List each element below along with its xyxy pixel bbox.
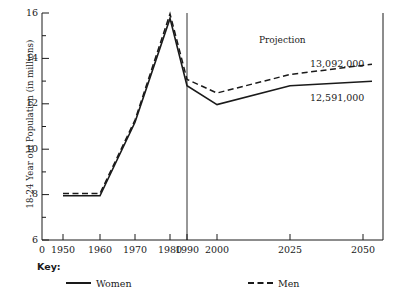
legend-swatch-solid-icon [66,282,91,284]
chart-figure: 18-24 Year old Population (in millions) … [0,0,398,297]
legend-item-men: Men [248,278,299,289]
chart-legend: Key: Women Men [0,258,398,297]
legend-label-men: Men [278,278,299,289]
axis-lines [42,13,383,240]
y-minor-ticks [42,36,46,218]
series-line-women [63,18,372,195]
legend-label-women: Women [96,278,132,289]
plot-area [0,0,398,297]
legend-title: Key: [37,261,61,272]
x-ticks [63,234,363,240]
legend-item-women: Women [66,278,132,289]
legend-swatch-dashed-icon [248,282,273,284]
